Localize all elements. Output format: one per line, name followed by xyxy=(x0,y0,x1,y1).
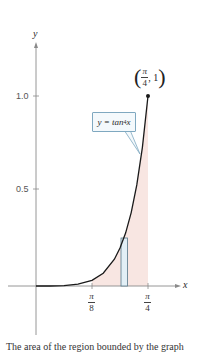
x-tick-label-pi4: π 4 xyxy=(144,292,151,313)
point-label: ( π 4 , 1 ) xyxy=(134,66,166,88)
frac-den: 4 xyxy=(143,79,148,88)
figure-caption: The area of the region bounded by the gr… xyxy=(6,341,184,352)
y-axis-label: y xyxy=(33,28,37,39)
y-axis-arrow-icon xyxy=(34,42,38,48)
callout-var: x xyxy=(127,117,131,127)
representative-rectangle xyxy=(121,238,128,286)
frac-num: π xyxy=(89,292,94,301)
point-y: , 1 xyxy=(148,72,158,83)
callout-prefix: y = tan xyxy=(97,117,123,127)
point-x-fraction: π 4 xyxy=(141,67,148,88)
y-tick-label-1: 1.0 xyxy=(16,91,29,101)
y-tick-label-05: 0.5 xyxy=(16,184,29,194)
paren-close: ) xyxy=(158,66,165,88)
frac-num: π xyxy=(145,292,150,301)
x-axis-arrow-icon xyxy=(175,284,181,288)
x-tick-label-pi8: π 8 xyxy=(88,292,95,313)
x-axis-label: x xyxy=(183,279,187,290)
paren-open: ( xyxy=(134,66,141,88)
callout-pointer xyxy=(124,130,140,154)
frac-den: 8 xyxy=(89,304,94,313)
function-callout: y = tan4 x xyxy=(92,112,136,132)
frac-den: 4 xyxy=(145,304,150,313)
endpoint-marker xyxy=(146,94,150,98)
frac-num: π xyxy=(143,67,148,76)
